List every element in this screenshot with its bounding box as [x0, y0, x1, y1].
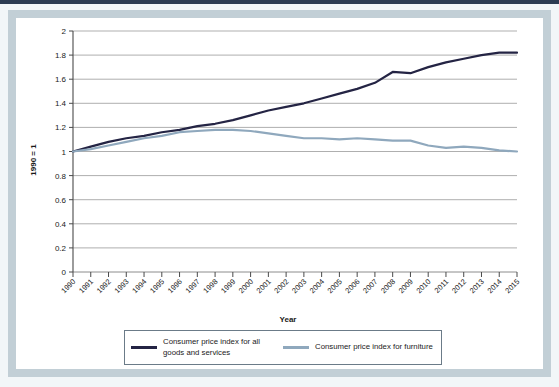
x-tick-label: 2001: [255, 277, 273, 295]
x-tick-label: 1996: [166, 277, 184, 295]
x-tick-label: 2007: [361, 277, 379, 295]
x-tick-label: 2004: [308, 277, 326, 295]
y-tick-label: 0.2: [55, 244, 67, 253]
series-line-1: [73, 130, 517, 152]
y-tick-label: 0.4: [55, 220, 67, 229]
x-tick-label: 2012: [450, 277, 468, 295]
x-tick-label: 2000: [237, 277, 255, 295]
x-tick-label: 2011: [433, 277, 451, 295]
y-tick-label: 1.6: [55, 75, 67, 84]
line-chart-svg: 00.20.40.60.811.21.41.61.82 199019911992…: [0, 0, 559, 387]
x-tick-label: 2013: [468, 277, 486, 295]
x-tick-label: 2003: [290, 277, 308, 295]
y-tick-label: 1.2: [55, 123, 67, 132]
x-tick-label: 2010: [414, 277, 432, 295]
y-tick-label: 1.8: [55, 51, 67, 60]
x-tick-group: 1990199119921993199419951996199719981999…: [59, 272, 521, 295]
legend-swatch-light-icon: [283, 346, 309, 349]
y-tick-label: 0.6: [55, 196, 67, 205]
x-tick-label: 1998: [201, 277, 219, 295]
x-tick-label: 2005: [326, 277, 344, 295]
legend-swatch-dark-icon: [131, 346, 157, 349]
x-tick-label: 1995: [148, 277, 166, 295]
x-tick-label: 1991: [77, 277, 95, 295]
x-axis-label: Year: [280, 315, 297, 324]
series-paths-group: [73, 53, 517, 152]
y-tick-label: 2: [62, 27, 67, 36]
y-axis-label: 1990 = 1: [29, 144, 38, 176]
gridlines-group: [73, 31, 517, 272]
x-tick-label: 1999: [219, 277, 237, 295]
x-tick-label: 2014: [485, 277, 503, 295]
x-tick-label: 1992: [95, 277, 113, 295]
y-tick-label: 1: [62, 148, 67, 157]
plot-container: 00.20.40.60.811.21.41.61.82 199019911992…: [0, 0, 559, 387]
x-tick-label: 1990: [59, 277, 77, 295]
y-tick-label: 1.4: [55, 99, 67, 108]
legend-label-cpi-all: Consumer price index for all goods and s…: [163, 337, 281, 358]
x-tick-label: 2006: [343, 277, 361, 295]
y-tick-label: 0.8: [55, 172, 67, 181]
x-tick-label: 1993: [113, 277, 131, 295]
legend-item-cpi-all: Consumer price index for all goods and s…: [131, 337, 283, 358]
x-tick-label: 2009: [397, 277, 415, 295]
y-tick-group: 00.20.40.60.811.21.41.61.82: [55, 27, 73, 277]
legend-item-cpi-furniture: Consumer price index for furniture: [283, 342, 435, 353]
chart-legend: Consumer price index for all goods and s…: [124, 330, 442, 365]
x-tick-label: 1994: [130, 277, 148, 295]
x-tick-label: 1997: [184, 277, 202, 295]
y-tick-label: 0: [62, 268, 67, 277]
x-tick-label: 2008: [379, 277, 397, 295]
chart-figure: 00.20.40.60.811.21.41.61.82 199019911992…: [0, 0, 559, 387]
x-tick-label: 2002: [272, 277, 290, 295]
x-tick-label: 2015: [503, 277, 521, 295]
legend-label-cpi-furniture: Consumer price index for furniture: [315, 342, 433, 353]
